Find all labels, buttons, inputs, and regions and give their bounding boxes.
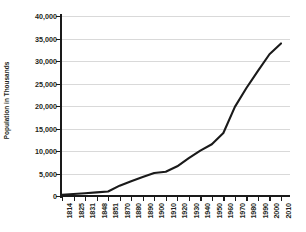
y-tick-mark xyxy=(56,84,61,85)
x-tick-label: 1825 xyxy=(77,203,86,219)
x-tick-mark xyxy=(246,196,247,201)
x-tick-label: 2000 xyxy=(272,203,281,219)
x-tick-label: 1870 xyxy=(123,203,132,219)
y-tick-mark xyxy=(56,151,61,152)
x-tick-label: 1920 xyxy=(180,203,189,219)
x-tick-mark xyxy=(212,196,213,201)
x-tick-mark xyxy=(85,196,86,201)
y-tick-mark xyxy=(56,61,61,62)
x-tick-mark xyxy=(154,196,155,201)
x-tick-mark xyxy=(200,196,201,201)
x-tick-mark xyxy=(108,196,109,201)
x-tick-mark xyxy=(258,196,259,201)
y-tick-mark xyxy=(56,196,61,197)
x-tick-label: 1910 xyxy=(169,203,178,219)
x-tick-mark xyxy=(74,196,75,201)
x-tick-label: 1980 xyxy=(249,203,258,219)
x-tick-label: 2010 xyxy=(284,203,293,219)
x-tick-mark xyxy=(269,196,270,201)
x-tick-label: 1990 xyxy=(261,203,270,219)
data-series-line xyxy=(0,0,306,232)
population-line-chart: Population in Thousands 05,00010,00015,0… xyxy=(0,0,306,232)
x-tick-mark xyxy=(189,196,190,201)
x-tick-label: 1930 xyxy=(192,203,201,219)
x-tick-label: 1814 xyxy=(65,203,74,219)
x-tick-mark xyxy=(281,196,282,201)
x-tick-mark xyxy=(131,196,132,201)
x-tick-label: 1880 xyxy=(134,203,143,219)
x-tick-mark xyxy=(120,196,121,201)
x-tick-label: 1831 xyxy=(88,203,97,219)
x-tick-mark xyxy=(166,196,167,201)
x-tick-mark xyxy=(62,196,63,201)
y-tick-mark xyxy=(56,106,61,107)
x-tick-mark xyxy=(143,196,144,201)
y-tick-mark xyxy=(56,129,61,130)
x-tick-label: 1848 xyxy=(100,203,109,219)
y-tick-mark xyxy=(56,174,61,175)
x-tick-label: 1900 xyxy=(157,203,166,219)
x-tick-mark xyxy=(223,196,224,201)
x-tick-mark xyxy=(235,196,236,201)
y-tick-mark xyxy=(56,39,61,40)
x-tick-label: 1970 xyxy=(238,203,247,219)
x-tick-label: 1950 xyxy=(215,203,224,219)
x-tick-label: 1851 xyxy=(111,203,120,219)
x-tick-label: 1960 xyxy=(226,203,235,219)
x-tick-mark xyxy=(97,196,98,201)
y-tick-mark xyxy=(56,16,61,17)
x-tick-mark xyxy=(177,196,178,201)
x-tick-label: 1890 xyxy=(146,203,155,219)
x-tick-label: 1940 xyxy=(203,203,212,219)
